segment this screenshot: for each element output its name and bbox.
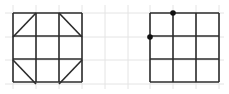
right-grid-figure — [147, 10, 219, 82]
diagonal-line — [13, 60, 36, 84]
point-dot — [147, 34, 153, 40]
left-grid-figure — [13, 13, 82, 84]
diagonal-line — [59, 13, 82, 37]
diagonal-line — [13, 13, 36, 37]
background-grid — [5, 5, 224, 89]
point-dot — [170, 10, 176, 16]
diagonal-line — [59, 60, 82, 84]
diagram-canvas — [0, 0, 229, 94]
